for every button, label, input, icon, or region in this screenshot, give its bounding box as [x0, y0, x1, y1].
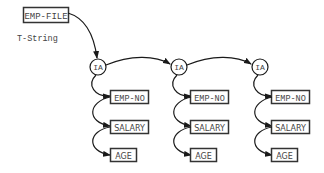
field-to-field-arrow	[174, 97, 191, 126]
emp-file-box: EMP-FILE	[24, 8, 69, 23]
ia-to-field-arrow	[173, 75, 191, 96]
ia-label: IA	[174, 63, 184, 72]
emp-file-label: EMP-FILE	[24, 12, 67, 22]
ia-to-field-arrow	[254, 75, 272, 96]
ia-to-ia-arrow-2	[187, 57, 251, 65]
field-to-field-arrow	[174, 127, 191, 155]
emp-no-label: EMP-NO	[114, 94, 145, 104]
field-to-field-arrow	[93, 127, 110, 155]
ia-node-2: IA EMP-NO SALARY AGE	[171, 59, 229, 162]
age-label: AGE	[115, 152, 132, 161]
ia-label: IA	[255, 63, 265, 72]
ia-to-field-arrow	[92, 75, 110, 96]
field-to-field-arrow	[93, 97, 110, 126]
salary-label: SALARY	[114, 124, 145, 133]
ia-node-3: IA EMP-NO SALARY AGE	[252, 59, 310, 162]
ia-to-ia-arrow-1	[106, 57, 170, 65]
age-label: AGE	[276, 152, 293, 161]
emp-no-label: EMP-NO	[275, 94, 306, 104]
field-to-field-arrow	[255, 97, 272, 126]
salary-label: SALARY	[275, 124, 306, 133]
ia-label: IA	[93, 63, 103, 72]
emp-no-label: EMP-NO	[194, 94, 225, 104]
age-label: AGE	[195, 152, 212, 161]
field-to-field-arrow	[255, 127, 272, 155]
root-to-ia-arrow	[68, 13, 97, 58]
salary-label: SALARY	[194, 124, 225, 133]
t-string-label: T-String	[17, 34, 58, 44]
data-structure-diagram: EMP-FILE T-String IA EMP-NO SALARY AGE I…	[0, 0, 324, 173]
ia-node-1: IA EMP-NO SALARY AGE	[90, 59, 149, 162]
